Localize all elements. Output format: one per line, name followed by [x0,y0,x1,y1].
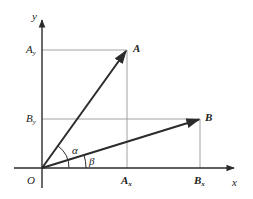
by-label: By [26,112,37,126]
ax-label: Ax [120,174,132,188]
origin-label: O [27,174,35,186]
angle-alpha-arc [58,146,69,168]
beta-label: β [88,155,95,167]
vector-a [42,51,126,168]
vector-diagram: y x O A B Ay By Ax Bx α β [0,0,253,199]
y-axis-label: y [31,10,37,22]
vector-b [42,120,199,169]
x-axis-label: x [231,176,237,188]
diagram-canvas: y x O A B Ay By Ax Bx α β [0,0,253,199]
projection-guides [42,50,200,168]
alpha-label: α [72,144,78,156]
bx-label: Bx [193,174,205,188]
ay-label: Ay [25,43,37,57]
vector-a-label: A [132,42,140,54]
vector-b-label: B [204,111,212,123]
angle-beta-arc [84,155,86,168]
